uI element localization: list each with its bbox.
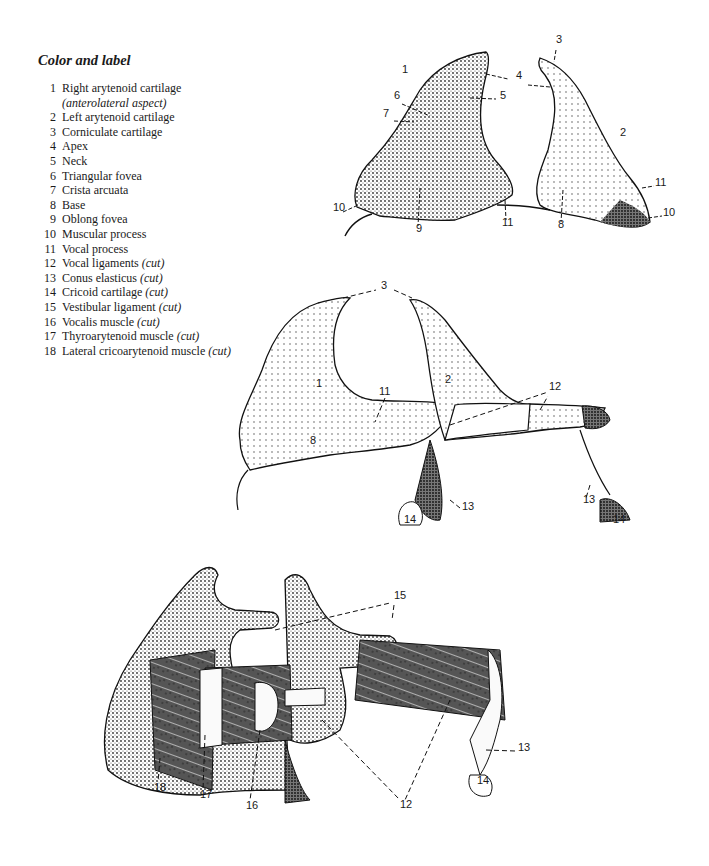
figure-top-label: 4 <box>516 69 522 81</box>
figure-middle-label: 8 <box>310 434 316 446</box>
figure-middle-label: 3 <box>381 279 387 291</box>
figure-bottom-label: 17 <box>200 788 212 800</box>
figure-top-label: 10 <box>663 206 675 218</box>
figure-arytenoid-cartilages <box>0 0 709 866</box>
left-arytenoid-shape <box>537 58 650 227</box>
figure-top-label: 5 <box>500 89 506 101</box>
figure-middle-label: 14 <box>404 513 416 525</box>
figure-middle-label: 12 <box>549 380 561 392</box>
figure-middle-label: 1 <box>316 377 322 389</box>
figure-middle-label: 11 <box>379 385 390 397</box>
arytenoid-cartilages-illustration <box>0 0 709 866</box>
figure-bottom-label: 15 <box>394 589 406 601</box>
figure-middle-label: 14 <box>613 513 625 525</box>
figure-middle-label: 13 <box>462 500 474 512</box>
right-arytenoid-shape <box>355 52 513 221</box>
figure-top-label: 11 <box>502 216 513 228</box>
figure-top-label: 10 <box>333 201 345 213</box>
figure-top-label: 3 <box>556 33 562 45</box>
figure-bottom-label: 18 <box>154 781 166 793</box>
figure-middle-label: 13 <box>583 493 595 505</box>
figure-bottom-label: 13 <box>518 741 530 753</box>
figure-top-label: 9 <box>416 222 422 234</box>
figure-bottom-label: 16 <box>246 799 258 811</box>
figure-middle-label: 2 <box>445 373 451 385</box>
figure-top-label: 7 <box>383 107 389 119</box>
figure-top-label: 8 <box>558 218 564 230</box>
figure-bottom-label: 12 <box>400 798 412 810</box>
figure-top-label: 1 <box>402 63 408 75</box>
figure-top-label: 11 <box>655 176 666 188</box>
thyroarytenoid-muscle-right <box>355 640 505 720</box>
figure-top-label: 2 <box>620 126 626 138</box>
figure-top-label: 6 <box>394 89 400 101</box>
figure-bottom-label: 14 <box>477 774 489 786</box>
